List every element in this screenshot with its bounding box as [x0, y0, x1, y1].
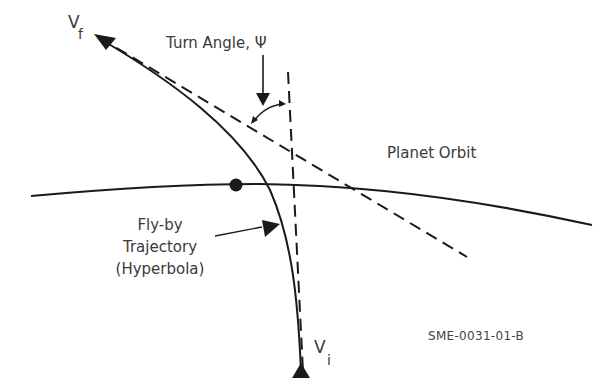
trajectory-pointer-head-icon — [262, 220, 280, 237]
turn-angle-label: Turn Angle, Ψ — [166, 36, 267, 51]
vf-subscript: f — [78, 27, 83, 41]
vi-arrowhead-icon — [292, 363, 310, 378]
figure-code: SME-0031-01-B — [428, 329, 524, 343]
trajectory-pointer — [215, 227, 262, 236]
angle-arc — [254, 104, 283, 121]
angle-arc-head-right-icon — [279, 100, 286, 107]
planet-icon — [230, 179, 243, 192]
vf-arrowhead-icon — [94, 34, 116, 50]
vi-label: V — [314, 339, 326, 356]
flyby-trajectory — [102, 40, 301, 372]
trajectory-label-3: (Hyperbola) — [110, 262, 210, 277]
turn-angle-pointer-head-icon — [256, 93, 270, 106]
planet-orbit-label: Planet Orbit — [387, 146, 476, 161]
vi-subscript: i — [327, 353, 331, 367]
trajectory-label-2: Trajectory — [110, 240, 210, 255]
incoming-asymptote — [288, 72, 303, 372]
trajectory-label-1: Fly-by — [110, 218, 210, 233]
